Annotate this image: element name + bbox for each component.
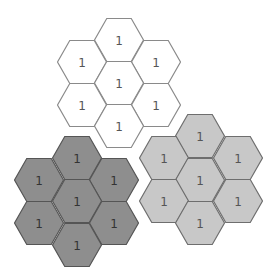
hex-number-label: 1	[152, 56, 160, 70]
hex-number-label: 1	[110, 217, 118, 231]
hex-number-label: 1	[73, 239, 81, 253]
hex-number-label: 1	[78, 56, 86, 70]
hex-number-label: 1	[160, 152, 168, 166]
hex-number-label: 1	[78, 99, 86, 113]
hex-number-label: 1	[115, 120, 123, 134]
dark-gray-hex-cluster: 1111111	[15, 137, 139, 267]
hex-number-label: 1	[110, 174, 118, 188]
hex-number-label: 1	[73, 152, 81, 166]
hex-number-label: 1	[115, 34, 123, 48]
hex-number-label: 1	[35, 174, 43, 188]
hexagon-puzzle-canvas: 1111111 1111111 1111111	[0, 0, 278, 278]
hex-number-label: 1	[115, 77, 123, 91]
hex-number-label: 1	[234, 152, 242, 166]
white-hex-cluster: 1111111	[58, 19, 181, 148]
hex-number-label: 1	[196, 130, 204, 144]
hexagon-diagram: 1111111 1111111 1111111	[0, 0, 278, 278]
hex-number-label: 1	[152, 99, 160, 113]
hex-number-label: 1	[35, 217, 43, 231]
hex-number-label: 1	[73, 195, 81, 209]
hex-number-label: 1	[196, 217, 204, 231]
hex-number-label: 1	[196, 174, 204, 188]
hex-number-label: 1	[234, 195, 242, 209]
hex-number-label: 1	[160, 195, 168, 209]
light-gray-hex-cluster: 1111111	[140, 115, 263, 245]
